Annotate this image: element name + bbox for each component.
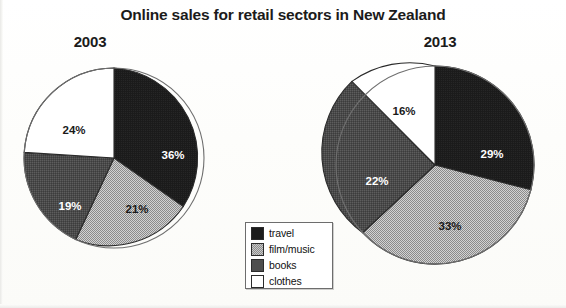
pie-value-2013-clothes: 16% (392, 105, 415, 117)
pie-value-2003-clothes: 24% (62, 124, 85, 136)
black-swatch-icon (251, 227, 264, 240)
legend-item-books: books (251, 258, 328, 273)
pie-chart-2013: 29% 33% 22% 16% (332, 62, 538, 268)
pie-label-2013: 2013 (398, 33, 482, 50)
legend-label-clothes: clothes (269, 276, 302, 287)
chart-page: Online sales for retail sectors in New Z… (0, 0, 566, 308)
scan-edge-artifact (0, 0, 3, 308)
legend-label-travel: travel (269, 228, 294, 239)
pie-chart-2003: 36% 21% 19% 24% (20, 64, 208, 252)
page-title: Online sales for retail sectors in New Z… (0, 6, 566, 24)
pie-value-2003-books: 19% (58, 200, 81, 212)
chart-legend: travel film/music books clothes (245, 222, 333, 289)
legend-item-clothes: clothes (251, 274, 328, 289)
pie-slice-2003-clothes (24, 68, 114, 158)
legend-label-film-music: film/music (269, 244, 315, 255)
pie-value-2013-travel: 29% (480, 148, 503, 160)
pie-value-2003-film-music: 21% (125, 203, 148, 215)
legend-item-travel: travel (251, 226, 328, 241)
light-gray-swatch-icon (251, 243, 264, 256)
legend-label-books: books (269, 260, 297, 271)
pie-svg-2003: 36% 21% 19% 24% (20, 64, 208, 252)
pie-value-2013-film-music: 33% (438, 220, 461, 232)
pie-label-2003: 2003 (48, 33, 132, 50)
pie-value-2003-travel: 36% (161, 149, 184, 161)
white-swatch-icon (251, 275, 264, 288)
pie-value-2013-books: 22% (365, 175, 388, 187)
scan-bottom-artifact (0, 304, 566, 308)
dark-gray-swatch-icon (251, 259, 264, 272)
legend-item-film-music: film/music (251, 242, 328, 257)
pie-svg-2013: 29% 33% 22% 16% (332, 62, 538, 268)
